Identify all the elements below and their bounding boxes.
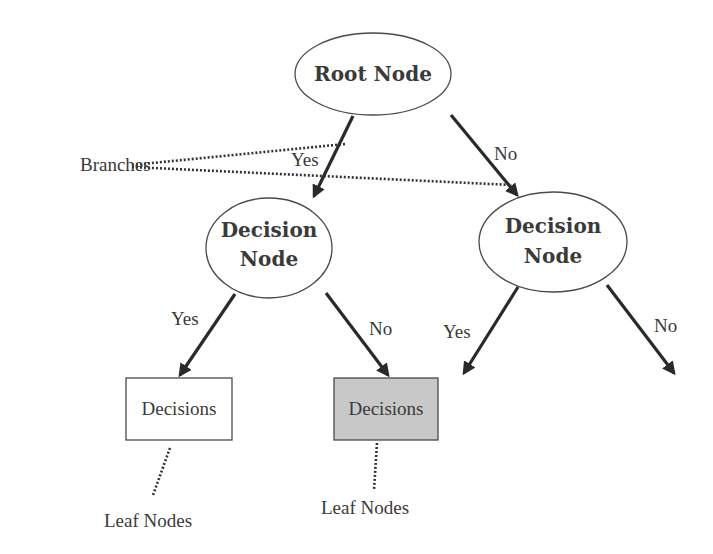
edge-label-right-yes: Yes xyxy=(443,321,471,342)
edge-left-to-leaf1 xyxy=(180,294,235,375)
leaf-nodes-pointer-1 xyxy=(153,448,170,495)
decision-node-left-line2: Node xyxy=(240,247,298,271)
decision-node-right-shape xyxy=(479,192,627,292)
branches-annotation: Branches xyxy=(80,154,151,175)
edge-label-root-yes: Yes xyxy=(291,149,319,170)
leaf-nodes-annotation-1: Leaf Nodes xyxy=(104,510,192,531)
edge-label-left-no: No xyxy=(369,318,392,339)
root-node-label: Root Node xyxy=(314,62,432,86)
decision-node-left-line1: Decision xyxy=(221,218,318,242)
leaf-node-1: Decisions xyxy=(126,378,232,440)
edge-label-left-yes: Yes xyxy=(171,308,199,329)
decision-node-right-line1: Decision xyxy=(505,214,602,238)
decision-node-right-line2: Node xyxy=(524,244,582,268)
decision-node-left: Decision Node xyxy=(206,198,332,298)
decision-node-right: Decision Node xyxy=(479,192,627,292)
leaf-node-2: Decisions xyxy=(334,378,438,440)
edge-label-right-no: No xyxy=(654,315,677,336)
leaf-node-1-label: Decisions xyxy=(142,398,217,419)
leaf-nodes-annotation-2: Leaf Nodes xyxy=(321,497,409,518)
root-node: Root Node xyxy=(295,33,451,115)
diagram-svg: Root Node Decision Node Decision Node Ye… xyxy=(0,0,713,554)
decision-tree-diagram: Root Node Decision Node Decision Node Ye… xyxy=(0,0,713,554)
leaf-nodes-pointer-2 xyxy=(374,443,377,490)
edge-label-root-no: No xyxy=(494,143,517,164)
leaf-node-2-label: Decisions xyxy=(349,398,424,419)
edge-right-yes xyxy=(464,287,518,373)
edge-root-to-left xyxy=(314,116,353,196)
